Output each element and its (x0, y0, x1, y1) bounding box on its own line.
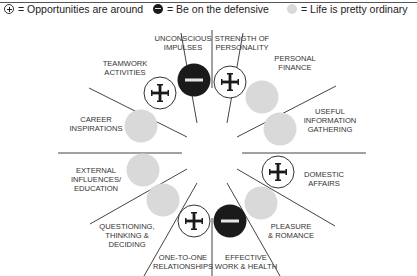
segment-label-work-health: EFFECTIVEWORK & HEALTH (215, 253, 277, 271)
segment-label-questioning: QUESTIONING,THINKING &DECIDING (99, 222, 154, 249)
gray-circle-icon (264, 113, 297, 146)
segment-label-external: EXTERNALINFLUENCES/EDUCATION (71, 166, 121, 193)
segment-label-information: USEFULINFORMATIONGATHERING (304, 107, 357, 134)
gray-circle-icon (245, 187, 278, 220)
gray-circle-icon (125, 110, 158, 143)
segment-label-impulses: UNCONSCIOUSIMPULSES (155, 34, 212, 52)
minus-circle-icon (214, 205, 247, 238)
plus-circle-icon (214, 66, 246, 98)
plus-circle-icon (262, 156, 294, 188)
segment-label-domestic: DOMESTICAFFAIRS (304, 170, 344, 188)
gray-circle-icon (147, 184, 180, 217)
plus-circle-icon (144, 77, 176, 109)
segment-label-career: CAREERINSPIRATIONS (69, 115, 122, 133)
gray-circle-icon (127, 154, 160, 187)
minus-circle-icon (178, 64, 211, 97)
gray-circle-icon (246, 81, 279, 114)
segment-label-relationships: ONE-TO-ONERELATIONSHIPS (153, 253, 213, 271)
segment-label-strength: STRENGTH OFPERSONALITY (215, 34, 269, 52)
segment-label-pleasure: PLEASURE& ROMANCE (268, 222, 314, 240)
plus-circle-icon (178, 205, 210, 237)
segment-label-finance: PERSONALFINANCE (274, 54, 315, 72)
segment-label-teamwork: TEAMWORKACTIVITIES (103, 59, 148, 77)
